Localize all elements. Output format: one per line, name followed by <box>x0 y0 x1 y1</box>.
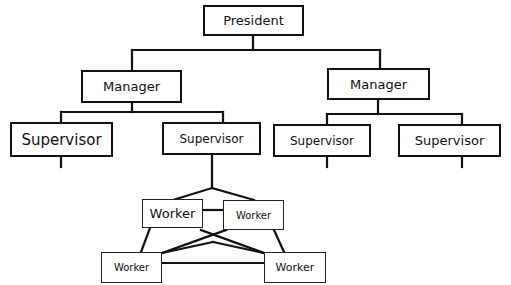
supervisor-4-label: Supervisor <box>415 133 484 148</box>
worker-top-left-box: Worker <box>142 199 203 228</box>
supervisor-2-label: Supervisor <box>179 132 243 146</box>
supervisor-1-label: Supervisor <box>21 131 101 149</box>
supervisor-1-box: Supervisor <box>10 122 113 157</box>
manager-left-box: Manager <box>81 70 182 103</box>
president-label: President <box>223 13 284 28</box>
supervisor-4-box: Supervisor <box>398 124 501 157</box>
president-box: President <box>203 5 304 36</box>
worker-bottom-right-box: Worker <box>264 252 326 283</box>
supervisor-3-label: Supervisor <box>290 134 354 148</box>
supervisor-3-box: Supervisor <box>273 124 371 157</box>
worker-top-right-label: Worker <box>236 210 271 221</box>
manager-right-label: Manager <box>350 77 407 92</box>
supervisor-2-box: Supervisor <box>162 122 261 155</box>
org-chart-diagram: President Manager Manager Supervisor Sup… <box>0 0 511 285</box>
worker-bottom-left-label: Worker <box>114 262 149 273</box>
worker-top-left-label: Worker <box>150 206 196 221</box>
manager-right-box: Manager <box>327 68 430 100</box>
worker-top-right-box: Worker <box>223 200 284 230</box>
worker-bottom-left-box: Worker <box>101 252 162 283</box>
worker-bottom-right-label: Worker <box>276 261 315 274</box>
manager-left-label: Manager <box>103 79 160 94</box>
